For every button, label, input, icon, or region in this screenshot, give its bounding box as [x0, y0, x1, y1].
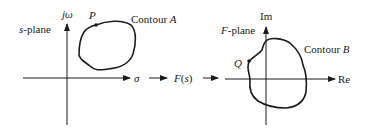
contour-a	[79, 21, 135, 70]
im-axis-label: Im	[260, 10, 273, 22]
point-p-marker	[94, 23, 98, 27]
jw-axis-label: jω	[60, 8, 73, 20]
sigma-axis-label: σ	[134, 72, 140, 84]
point-q-label: Q	[234, 57, 242, 69]
s-plane-label: s-plane	[19, 23, 51, 35]
re-axis-label: Re	[338, 73, 350, 85]
mapping: F(s)	[149, 72, 218, 85]
point-p-label: P	[88, 9, 96, 21]
mapping-diagram: s-plane jω P Contour A σ F(s) F-plane Im…	[0, 0, 369, 131]
function-label: F(s)	[173, 72, 193, 85]
contour-b	[248, 39, 306, 108]
contour-a-label: Contour A	[131, 13, 177, 25]
s-plane: s-plane jω P Contour A σ	[19, 8, 177, 125]
f-plane-label: F-plane	[220, 24, 255, 36]
f-plane: F-plane Im Q Contour B Re	[220, 10, 350, 125]
point-q-marker	[247, 59, 251, 63]
contour-b-label: Contour B	[304, 43, 350, 55]
